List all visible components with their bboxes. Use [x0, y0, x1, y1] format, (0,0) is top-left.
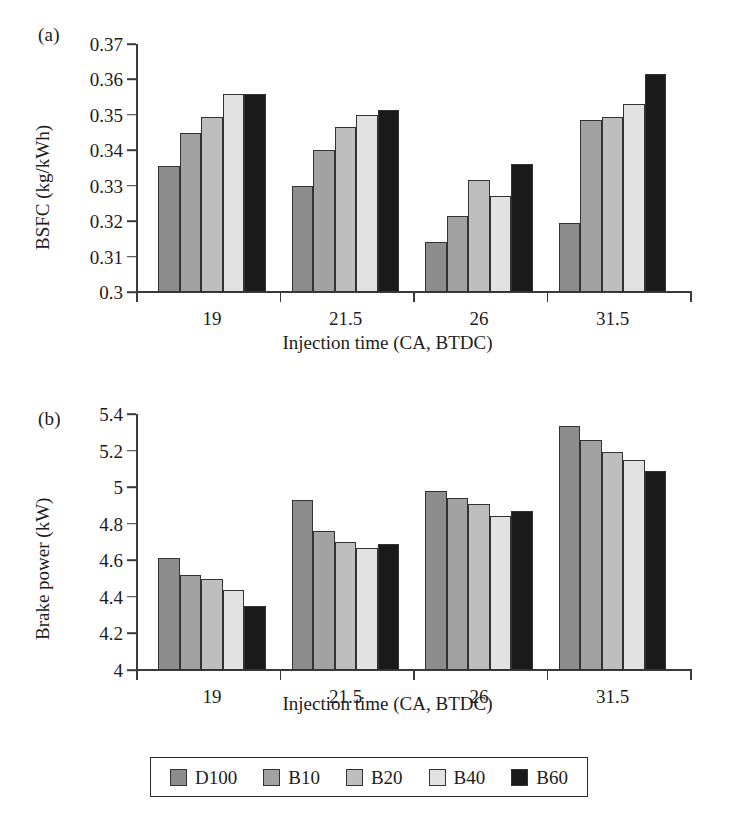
bar-b10-21-5 — [313, 531, 335, 670]
x-axis-tick — [136, 292, 138, 302]
bar-b60-26 — [511, 511, 533, 670]
bar-b10-31-5 — [580, 120, 602, 292]
bar-b40-19 — [223, 590, 245, 670]
x-axis-tick-label: 31.5 — [596, 308, 629, 330]
y-axis-tick — [127, 79, 136, 81]
y-axis-tick-label: 0.3 — [99, 283, 123, 302]
y-axis-tick — [127, 256, 136, 258]
bar-d100-26 — [425, 242, 447, 292]
panel-label-a: (a) — [38, 24, 60, 46]
y-axis-tick-label: 4.2 — [99, 624, 123, 643]
chart-panel-a: (a) BSFC (kg/kWh) 0.30.310.320.330.340.3… — [0, 0, 735, 375]
legend-item-d100[interactable]: D100 — [170, 768, 237, 787]
x-axis-tick — [413, 292, 415, 302]
y-axis-tick — [127, 450, 136, 452]
y-axis-tick-label: 0.36 — [90, 70, 123, 89]
y-axis-tick-label: 5.2 — [99, 441, 123, 460]
y-axis-tick-label: 0.31 — [90, 247, 123, 266]
y-axis-tick-label: 4.4 — [99, 587, 123, 606]
bar-b20-31-5 — [602, 117, 624, 292]
x-axis-tick — [413, 670, 415, 680]
y-axis-tick-label: 0.37 — [90, 35, 123, 54]
chart-panel-b: (b) Brake power (kW) 44.24.44.64.855.25.… — [0, 375, 735, 745]
x-axis-tick — [547, 292, 549, 302]
legend-label: D100 — [195, 768, 237, 787]
bar-b40-31-5 — [623, 460, 645, 670]
y-axis-tick — [127, 523, 136, 525]
y-axis-tick — [127, 149, 136, 151]
x-axis-tick — [280, 292, 282, 302]
legend-label: B20 — [371, 768, 403, 787]
bar-b60-26 — [511, 164, 533, 292]
y-axis-line-b — [136, 414, 138, 670]
y-axis-tick — [127, 559, 136, 561]
legend-label: B10 — [288, 768, 320, 787]
bar-b10-19 — [180, 575, 202, 670]
x-axis-tick — [547, 670, 549, 680]
y-axis-tick — [127, 114, 136, 116]
y-axis-tick — [127, 633, 136, 635]
legend-item-b10[interactable]: B10 — [263, 768, 320, 787]
y-axis-tick-label: 4.6 — [99, 551, 123, 570]
bar-b20-19 — [201, 117, 223, 292]
bar-b60-31-5 — [645, 471, 667, 670]
y-axis-title-b: Brake power (kW) — [32, 498, 54, 640]
bar-b20-21-5 — [335, 542, 357, 670]
bar-b20-26 — [468, 504, 490, 670]
bar-b60-19 — [244, 94, 266, 292]
x-axis-tick-label: 21.5 — [329, 308, 362, 330]
y-axis-tick-label: 5 — [114, 478, 124, 497]
bar-b40-26 — [490, 196, 512, 292]
bar-b10-21-5 — [313, 150, 335, 292]
legend-swatch-icon — [346, 769, 363, 786]
bar-d100-31-5 — [559, 426, 581, 670]
bar-b10-31-5 — [580, 440, 602, 670]
bar-b40-26 — [490, 516, 512, 670]
bar-b20-31-5 — [602, 452, 624, 670]
legend-item-b40[interactable]: B40 — [429, 768, 486, 787]
y-axis-tick — [127, 291, 136, 293]
bar-d100-19 — [158, 166, 180, 292]
bar-d100-19 — [158, 558, 180, 670]
y-axis-title-a: BSFC (kg/kWh) — [32, 125, 54, 250]
legend-item-b60[interactable]: B60 — [511, 768, 568, 787]
legend-label: B60 — [536, 768, 568, 787]
bar-d100-26 — [425, 491, 447, 670]
y-axis-tick-label: 0.34 — [90, 141, 123, 160]
y-axis-tick — [127, 43, 136, 45]
legend-swatch-icon — [429, 769, 446, 786]
bar-b60-21-5 — [378, 544, 400, 670]
bar-b20-26 — [468, 180, 490, 292]
y-axis-tick — [127, 486, 136, 488]
x-axis-tick — [136, 670, 138, 680]
bar-b10-26 — [447, 498, 469, 670]
plot-area-b: 44.24.44.64.855.25.41921.52631.5 — [136, 414, 692, 670]
bar-b40-21-5 — [356, 115, 378, 292]
y-axis-tick-label: 0.32 — [90, 212, 123, 231]
legend-swatch-icon — [170, 769, 187, 786]
x-axis-tick-label: 26 — [470, 308, 489, 330]
x-axis-tick — [690, 292, 692, 302]
chart-legend: D100B10B20B40B60 — [150, 757, 588, 797]
legend-label: B40 — [454, 768, 486, 787]
bar-d100-21-5 — [292, 500, 314, 670]
bar-d100-31-5 — [559, 223, 581, 292]
panel-label-b: (b) — [38, 408, 61, 430]
legend-swatch-icon — [263, 769, 280, 786]
y-axis-tick — [127, 596, 136, 598]
y-axis-tick-label: 0.33 — [90, 176, 123, 195]
y-axis-tick — [127, 185, 136, 187]
y-axis-tick-label: 4 — [114, 661, 124, 680]
legend-item-b20[interactable]: B20 — [346, 768, 403, 787]
bar-d100-21-5 — [292, 186, 314, 292]
bar-b60-19 — [244, 606, 266, 670]
x-axis-tick — [280, 670, 282, 680]
y-axis-tick — [127, 220, 136, 222]
bar-b10-26 — [447, 216, 469, 292]
bar-b20-21-5 — [335, 127, 357, 292]
x-axis-title-a: Injection time (CA, BTDC) — [20, 332, 735, 354]
bar-b40-31-5 — [623, 104, 645, 292]
bar-b10-19 — [180, 133, 202, 292]
bar-b60-21-5 — [378, 110, 400, 292]
y-axis-tick — [127, 413, 136, 415]
